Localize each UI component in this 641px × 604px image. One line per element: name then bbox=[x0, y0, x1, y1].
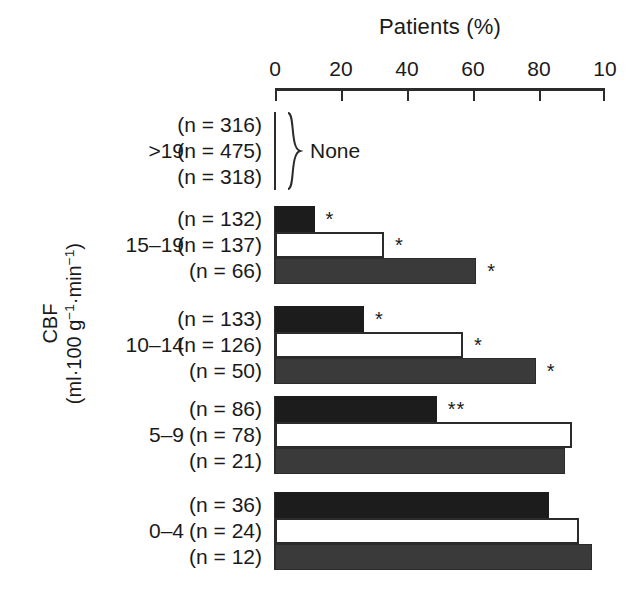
sample-size-label: (n = 126) bbox=[100, 333, 262, 357]
bar-group: 10–14(n = 133)*(n = 126)*(n = 50)* bbox=[0, 306, 641, 384]
bar bbox=[275, 396, 437, 422]
significance-marker: * bbox=[487, 258, 496, 284]
sample-size-label: (n = 24) bbox=[100, 519, 262, 543]
bar bbox=[275, 258, 476, 284]
bar bbox=[275, 448, 565, 474]
bar-group: 15–19(n = 132)*(n = 137)*(n = 66)* bbox=[0, 206, 641, 284]
sample-size-label: (n = 86) bbox=[100, 397, 262, 421]
none-label: None bbox=[310, 139, 360, 163]
bar bbox=[275, 518, 579, 544]
bar-group: 0–4(n = 36)(n = 24)(n = 12) bbox=[0, 492, 641, 570]
bar bbox=[275, 544, 592, 570]
bar bbox=[275, 306, 364, 332]
none-brace bbox=[286, 112, 304, 190]
bar-group: 5–9(n = 86)**(n = 78)(n = 21) bbox=[0, 396, 641, 474]
bar-group: >19(n = 316)(n = 475)(n = 318)None bbox=[0, 112, 641, 190]
significance-marker: * bbox=[474, 332, 483, 358]
plot-area: >19(n = 316)(n = 475)(n = 318)None15–19(… bbox=[0, 0, 641, 604]
bar bbox=[275, 422, 572, 448]
sample-size-label: (n = 12) bbox=[100, 545, 262, 569]
sample-size-label: (n = 137) bbox=[100, 233, 262, 257]
significance-marker: * bbox=[326, 206, 335, 232]
sample-size-label: (n = 50) bbox=[100, 359, 262, 383]
bar bbox=[275, 332, 463, 358]
significance-marker: ** bbox=[448, 396, 466, 422]
sample-size-label: (n = 21) bbox=[100, 449, 262, 473]
sample-size-label: (n = 78) bbox=[100, 423, 262, 447]
bar bbox=[275, 358, 536, 384]
bar bbox=[275, 232, 384, 258]
sample-size-label: (n = 133) bbox=[100, 307, 262, 331]
bar bbox=[275, 206, 315, 232]
sample-size-label: (n = 66) bbox=[100, 259, 262, 283]
group-baseline bbox=[274, 112, 276, 190]
chart-figure: Patients (%) 02040608010 CBF (ml·100 g−1… bbox=[0, 0, 641, 604]
significance-marker: * bbox=[547, 358, 556, 384]
bar bbox=[275, 492, 549, 518]
significance-marker: * bbox=[395, 232, 404, 258]
significance-marker: * bbox=[375, 306, 384, 332]
sample-size-label: (n = 316) bbox=[100, 113, 262, 137]
sample-size-label: (n = 36) bbox=[100, 493, 262, 517]
sample-size-label: (n = 132) bbox=[100, 207, 262, 231]
sample-size-label: (n = 318) bbox=[100, 165, 262, 189]
sample-size-label: (n = 475) bbox=[100, 139, 262, 163]
